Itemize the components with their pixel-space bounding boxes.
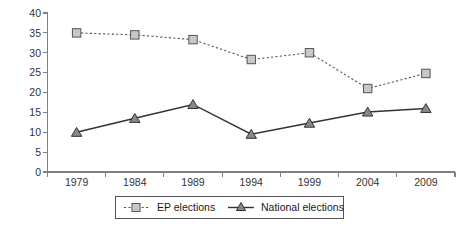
- data-series-layer: [71, 29, 431, 139]
- square-marker[interactable]: [363, 84, 371, 92]
- square-marker[interactable]: [422, 69, 430, 77]
- legend-label-national: National elections: [261, 201, 344, 213]
- chart-canvas: 40 35 30 25 20 15 10 5 0: [0, 0, 459, 231]
- x-tick-label: 1999: [298, 176, 322, 188]
- series-national-elections: [71, 100, 431, 139]
- x-tick-label: 1979: [65, 176, 89, 188]
- y-tick-label: 20: [29, 86, 41, 98]
- x-tick-label: 1984: [123, 176, 147, 188]
- y-tick-label: 35: [29, 27, 41, 39]
- y-tick-label: 25: [29, 66, 41, 78]
- line-chart: 40 35 30 25 20 15 10 5 0: [0, 0, 459, 231]
- square-marker[interactable]: [305, 49, 313, 57]
- y-tick-label: 40: [29, 7, 41, 19]
- chart-legend: EP elections National elections: [116, 197, 344, 219]
- x-tick-label: 1994: [240, 176, 264, 188]
- legend-label-ep: EP elections: [157, 201, 215, 213]
- y-tick-label: 10: [29, 126, 41, 138]
- x-axis-tick-labels: 1979 1984 1989 1994 1999 2004 2009: [65, 176, 438, 188]
- y-tick-label: 5: [35, 146, 41, 158]
- y-axis-ticks: [43, 13, 48, 172]
- square-marker[interactable]: [189, 35, 197, 43]
- y-tick-label: 15: [29, 106, 41, 118]
- y-tick-label: 0: [35, 166, 41, 178]
- triangle-marker[interactable]: [188, 100, 198, 109]
- y-tick-label: 30: [29, 47, 41, 59]
- x-tick-label: 1989: [181, 176, 205, 188]
- square-marker[interactable]: [247, 55, 255, 63]
- x-tick-label: 2004: [356, 176, 380, 188]
- y-axis-tick-labels: 40 35 30 25 20 15 10 5 0: [29, 7, 41, 178]
- square-marker-icon: [132, 204, 140, 212]
- series-ep-elections: [72, 29, 430, 93]
- square-marker[interactable]: [131, 31, 139, 39]
- x-tick-label: 2009: [414, 176, 438, 188]
- square-marker[interactable]: [72, 29, 80, 37]
